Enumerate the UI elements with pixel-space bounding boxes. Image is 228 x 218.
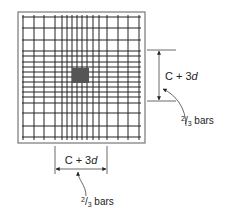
bottom-dimension-label: C + 3d xyxy=(65,154,99,166)
bottom-bars-note: 2/3 bars xyxy=(81,196,114,208)
right-bars-note: 2/3 bars xyxy=(181,115,214,127)
right-dimension-label: C + 3d xyxy=(165,70,199,82)
reinforcement-diagram: C + 3d 2/3 bars C + 3d 2/3 bars xyxy=(0,0,228,218)
column-square xyxy=(72,68,89,83)
leader-curve-bottom xyxy=(78,172,86,196)
